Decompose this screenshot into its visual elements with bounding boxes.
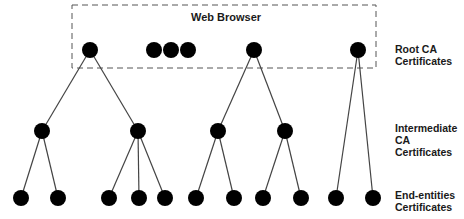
edge-i3-l6 [196, 131, 218, 198]
end-entity-node [101, 190, 117, 206]
end-entity-node [365, 190, 381, 206]
root-ca-node [246, 42, 262, 58]
intermediate-ca-node [277, 123, 293, 139]
root-ca-node [82, 42, 98, 58]
root-ca-label-line2: Certificates [395, 55, 452, 67]
edge-i2-l4 [138, 131, 139, 198]
end-entity-node [226, 190, 242, 206]
end-entities-label: End-entities Certificates [395, 189, 455, 213]
edge-i3-l7 [218, 131, 234, 198]
intermediate-ca-label: Intermediate CA Certificates [395, 122, 464, 158]
edge-i4-l9 [285, 131, 301, 198]
edge-i1-l2 [42, 131, 58, 198]
edges [21, 50, 373, 198]
root-ca-node [180, 42, 196, 58]
root-ca-node [350, 42, 366, 58]
root-ca-label: Root CA Certificates [395, 43, 452, 67]
end-entity-node [50, 190, 66, 206]
root-ca-node [163, 42, 179, 58]
edge-i2-l5 [138, 131, 165, 198]
nodes [13, 42, 381, 206]
end-entity-node [255, 190, 271, 206]
end-entity-node [188, 190, 204, 206]
edge-r6-l11 [358, 50, 373, 198]
edge-r1-i1 [42, 50, 90, 131]
edge-r6-l10 [336, 50, 358, 198]
edge-r5-i3 [218, 50, 254, 131]
web-browser-label: Web Browser [191, 11, 261, 23]
certificate-hierarchy-diagram [0, 0, 464, 219]
end-entities-label-line1: End-entities [395, 189, 455, 201]
end-entity-node [131, 190, 147, 206]
edge-r1-i2 [90, 50, 138, 131]
intermediate-ca-label-line1: Intermediate [395, 122, 464, 134]
end-entity-node [157, 190, 173, 206]
end-entities-label-line2: Certificates [395, 201, 455, 213]
root-ca-node [146, 42, 162, 58]
intermediate-ca-node [210, 123, 226, 139]
intermediate-ca-label-line2: CA Certificates [395, 134, 464, 158]
edge-i4-l8 [263, 131, 285, 198]
root-ca-label-line1: Root CA [395, 43, 452, 55]
intermediate-ca-node [130, 123, 146, 139]
edge-i2-l3 [109, 131, 138, 198]
end-entity-node [13, 190, 29, 206]
edge-i1-l1 [21, 131, 42, 198]
edge-r5-i4 [254, 50, 285, 131]
end-entity-node [293, 190, 309, 206]
intermediate-ca-node [34, 123, 50, 139]
end-entity-node [328, 190, 344, 206]
